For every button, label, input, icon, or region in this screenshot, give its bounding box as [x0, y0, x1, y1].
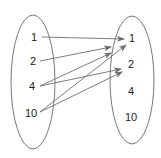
codomain-value-2: 2 — [128, 58, 134, 70]
arrow-2-to-1 — [40, 47, 111, 61]
arrow-10-to-2 — [40, 72, 122, 112]
codomain-value-10: 10 — [125, 111, 137, 123]
codomain-value-4: 4 — [128, 85, 134, 97]
domain-value-4: 4 — [29, 80, 35, 92]
mapping-diagram: 1 2 4 10 1 2 4 10 — [0, 0, 161, 158]
domain-value-2: 2 — [30, 55, 36, 67]
domain-value-1: 1 — [31, 31, 37, 43]
codomain-value-1: 1 — [129, 32, 135, 44]
arrow-4-to-2 — [40, 69, 121, 86]
arrow-1-to-1 — [42, 37, 124, 39]
domain-value-10: 10 — [25, 107, 37, 119]
arrow-4-to-1 — [40, 53, 111, 86]
